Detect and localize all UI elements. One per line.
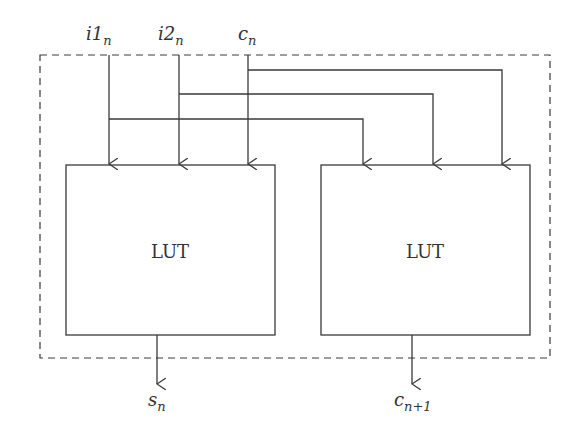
input-label-i1: i1n bbox=[86, 23, 112, 48]
lut-label-right: LUT bbox=[406, 241, 444, 262]
dashed-container bbox=[40, 55, 550, 358]
wire-i1-right bbox=[109, 119, 363, 164]
wire-c-right bbox=[248, 70, 502, 164]
input-label-c: cn bbox=[238, 23, 256, 48]
output-label-cout: cn+1 bbox=[394, 389, 432, 414]
lut-label-left: LUT bbox=[151, 241, 189, 262]
output-label-s: sn bbox=[148, 389, 166, 414]
wire-i2-right bbox=[179, 94, 433, 164]
input-label-i2: i2n bbox=[158, 23, 184, 48]
lut-adder-diagram: i1n i2n cn LUT LUT sn cn+1 bbox=[0, 0, 580, 426]
